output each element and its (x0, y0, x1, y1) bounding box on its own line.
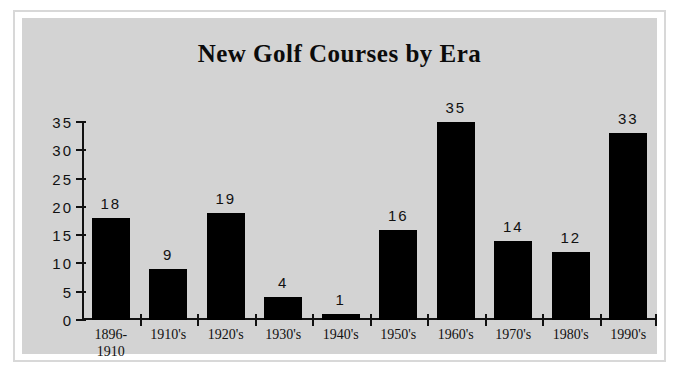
x-axis-labels: 1896- 19101910's1920's1930's1940's1950's… (82, 326, 657, 370)
bar (264, 297, 302, 320)
bar (494, 241, 532, 320)
bar (92, 218, 130, 320)
x-axis-label: 1990's (600, 326, 658, 343)
bar-value-label: 33 (618, 110, 639, 127)
y-tick-label: 20 (52, 198, 73, 215)
bar (207, 213, 245, 320)
bar-value-label: 14 (503, 218, 524, 235)
y-tick-label: 25 (52, 170, 73, 187)
bar-slot: 14 (485, 122, 543, 320)
bar-series: 18919411635141233 (82, 122, 657, 320)
y-tick-label: 10 (52, 255, 73, 272)
bar (609, 133, 647, 320)
bar-slot: 9 (140, 122, 198, 320)
y-tick-label: 35 (52, 114, 73, 131)
bar-slot: 33 (600, 122, 658, 320)
bar (437, 122, 475, 320)
bar-slot: 4 (255, 122, 313, 320)
bar (379, 230, 417, 321)
bar-value-label: 1 (336, 291, 346, 308)
bar-slot: 19 (197, 122, 255, 320)
chart-frame-outer: New Golf Courses by Era 05101520253035 1… (13, 10, 666, 362)
x-axis-label: 1896- 1910 (82, 326, 140, 360)
bar-value-label: 9 (163, 246, 173, 263)
x-axis-label: 1940's (312, 326, 370, 343)
y-tick-label: 15 (52, 227, 73, 244)
y-tick-label: 5 (63, 283, 73, 300)
bar-slot: 35 (427, 122, 485, 320)
bar-slot: 16 (370, 122, 428, 320)
bar (149, 269, 187, 320)
bar (322, 314, 360, 320)
x-axis-label: 1970's (485, 326, 543, 343)
chart-canvas: New Golf Courses by Era 05101520253035 1… (22, 18, 657, 354)
bar-value-label: 12 (560, 229, 581, 246)
x-axis-label: 1920's (197, 326, 255, 343)
y-tick-label: 30 (52, 142, 73, 159)
x-axis-label: 1910's (140, 326, 198, 343)
chart-title: New Golf Courses by Era (22, 40, 657, 68)
bar-value-label: 18 (100, 195, 121, 212)
bar-value-label: 4 (278, 274, 288, 291)
bar-value-label: 35 (445, 99, 466, 116)
bar-value-label: 16 (388, 207, 409, 224)
y-tick-label: 0 (63, 312, 73, 329)
x-axis-label: 1950's (370, 326, 428, 343)
bar-value-label: 19 (215, 190, 236, 207)
x-axis-label: 1960's (427, 326, 485, 343)
bar-slot: 12 (542, 122, 600, 320)
x-axis-label: 1930's (255, 326, 313, 343)
plot-area: 05101520253035 18919411635141233 (82, 122, 657, 320)
bar-slot: 18 (82, 122, 140, 320)
x-axis-label: 1980's (542, 326, 600, 343)
bar-slot: 1 (312, 122, 370, 320)
bar (552, 252, 590, 320)
